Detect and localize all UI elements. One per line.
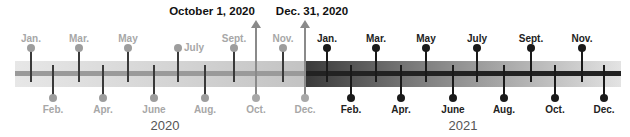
dot-icon: [500, 94, 508, 102]
tick-2021-aug: [503, 65, 505, 98]
month-label-2020-oct: Oct.: [246, 104, 265, 115]
tick-2021-apr: [400, 65, 402, 98]
month-label-2020-mar: Mar.: [69, 33, 89, 44]
dot-icon: [600, 94, 608, 102]
tick-2021-may: [425, 48, 427, 82]
month-label-2020-jan: Jan.: [21, 33, 41, 44]
dot-icon: [578, 44, 586, 52]
tick-2021-jan: [326, 48, 328, 82]
dot-icon: [230, 44, 238, 52]
axis-line-2021: [306, 71, 621, 76]
dot-icon: [347, 94, 355, 102]
dot-icon: [124, 44, 132, 52]
timeline-diagram: October 1, 2020 Dec. 31, 2020 Jan. Mar. …: [0, 0, 630, 137]
dot-icon: [201, 94, 209, 102]
tick-2020-sept: [233, 48, 235, 82]
month-label-2021-sept: Sept.: [519, 33, 543, 44]
month-label-2021-nov: Nov.: [572, 33, 593, 44]
dot-icon: [252, 94, 260, 102]
month-label-2021-feb: Feb.: [341, 104, 362, 115]
month-label-2021-aug: Aug.: [493, 104, 515, 115]
month-label-2020-feb: Feb.: [43, 104, 64, 115]
dot-icon: [279, 44, 287, 52]
tick-2021-june: [452, 65, 454, 98]
month-label-2021-oct: Oct.: [545, 104, 564, 115]
dot-icon: [449, 94, 457, 102]
year-label-2021: 2021: [449, 118, 478, 133]
tick-2020-nov: [282, 48, 284, 82]
month-label-2021-jan: Jan.: [317, 33, 337, 44]
dot-icon: [323, 44, 331, 52]
dot-icon: [49, 94, 57, 102]
tick-2021-july: [476, 48, 478, 82]
tick-2020-may: [127, 48, 129, 82]
dot-icon: [150, 94, 158, 102]
axis-line-2020: [15, 71, 306, 76]
month-label-2020-dec: Dec.: [294, 104, 315, 115]
month-label-2021-july: July: [467, 33, 487, 44]
dot-icon: [527, 44, 535, 52]
month-label-2020-july: July: [184, 42, 204, 53]
month-label-2021-apr: Apr.: [391, 104, 410, 115]
tick-2020-june: [153, 65, 155, 98]
year-label-2020: 2020: [151, 118, 180, 133]
dot-icon: [551, 94, 559, 102]
event-label-oct-1-2020: October 1, 2020: [169, 5, 255, 17]
tick-2021-feb: [350, 65, 352, 98]
month-label-2020-apr: Apr.: [93, 104, 112, 115]
month-label-2020-aug: Aug.: [194, 104, 216, 115]
month-label-2020-sept: Sept.: [222, 33, 246, 44]
tick-2020-feb: [52, 65, 54, 98]
month-label-2020-nov: Nov.: [273, 33, 294, 44]
dot-icon: [99, 94, 107, 102]
arrow-up-icon: [300, 20, 310, 28]
event-label-dec-31-2020: Dec. 31, 2020: [276, 5, 348, 17]
tick-2021-sept: [530, 48, 532, 82]
tick-2021-mar: [375, 48, 377, 82]
tick-2020-aug: [204, 65, 206, 98]
tick-2020-mar: [78, 48, 80, 82]
tick-2020-july: [177, 48, 179, 82]
dot-icon: [75, 44, 83, 52]
month-label-2021-mar: Mar.: [366, 33, 386, 44]
tick-2021-nov: [581, 48, 583, 82]
tick-2021-oct: [554, 65, 556, 98]
dot-icon: [372, 44, 380, 52]
tick-2020-apr: [102, 65, 104, 98]
dot-icon: [174, 44, 182, 52]
dot-icon: [27, 44, 35, 52]
dot-icon: [422, 44, 430, 52]
month-label-2021-june: June: [441, 104, 464, 115]
dot-icon: [397, 94, 405, 102]
dot-icon: [473, 44, 481, 52]
arrow-up-icon: [251, 20, 261, 28]
dot-icon: [301, 94, 309, 102]
month-label-2020-june: June: [142, 104, 165, 115]
month-label-2021-dec: Dec.: [593, 104, 614, 115]
event-marker-oct-2020: [255, 26, 257, 98]
tick-2020-jan: [30, 48, 32, 82]
event-marker-dec-2020: [304, 26, 306, 98]
month-label-2021-may: May: [416, 33, 435, 44]
month-label-2020-may: May: [118, 33, 137, 44]
tick-2021-dec: [603, 65, 605, 98]
